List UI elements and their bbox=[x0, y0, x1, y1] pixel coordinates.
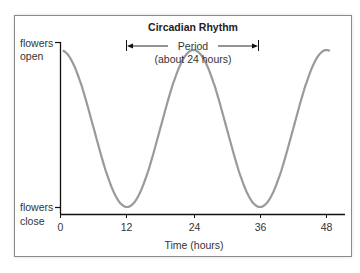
period-sublabel: (about 24 hours) bbox=[154, 53, 231, 65]
x-tick-label: 0 bbox=[58, 221, 64, 233]
y-label-bottom-line1: flowers bbox=[20, 201, 53, 213]
y-label-top-line1: flowers bbox=[20, 37, 53, 49]
chart-title: Circadian Rhythm bbox=[148, 21, 238, 33]
x-tick-label: 36 bbox=[255, 221, 267, 233]
period-label: Period bbox=[178, 40, 209, 52]
x-tick-label: 12 bbox=[121, 221, 133, 233]
rhythm-curve bbox=[63, 50, 330, 207]
y-label-bottom-line2: close bbox=[20, 215, 45, 227]
x-axis-label: Time (hours) bbox=[164, 239, 223, 251]
circadian-chart: Circadian Rhythm 0 12 24 36 48 Time (hou… bbox=[0, 0, 360, 273]
x-tick-label: 24 bbox=[189, 221, 201, 233]
y-label-top-line2: open bbox=[20, 50, 44, 62]
x-tick-label: 48 bbox=[321, 221, 333, 233]
